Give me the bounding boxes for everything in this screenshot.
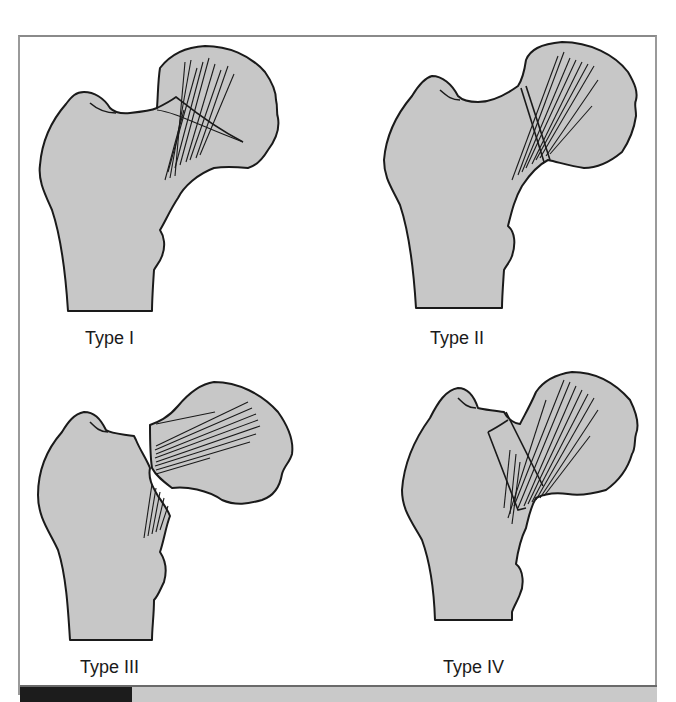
label-type-3: Type III xyxy=(80,657,139,678)
label-type-2: Type II xyxy=(430,328,484,349)
femur-type-1-illustration xyxy=(0,0,340,350)
bottom-bar-accent xyxy=(20,687,132,702)
panel-type-1: Type I xyxy=(0,0,340,350)
femur-type-2-illustration xyxy=(340,0,676,350)
femur-type-3-illustration xyxy=(0,350,340,685)
panel-type-2: Type II xyxy=(340,0,676,350)
femur-type-4-illustration xyxy=(340,350,676,685)
bottom-bar xyxy=(20,685,657,702)
label-type-4: Type IV xyxy=(443,657,504,678)
panel-type-3: Type III xyxy=(0,350,340,685)
panel-type-4: Type IV xyxy=(340,350,676,685)
label-type-1: Type I xyxy=(85,328,134,349)
